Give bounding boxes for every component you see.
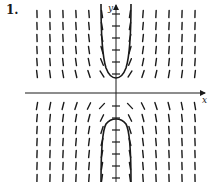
slope-mark: [169, 46, 170, 53]
slope-mark: [37, 70, 38, 77]
slope-mark: [88, 71, 90, 78]
slope-mark: [182, 70, 183, 77]
slope-mark: [194, 102, 195, 109]
slope-mark: [63, 126, 64, 133]
slope-mark: [142, 126, 143, 133]
slope-mark: [143, 10, 144, 17]
slope-mark: [36, 102, 37, 109]
slope-mark: [76, 138, 77, 145]
slope-mark: [143, 138, 144, 145]
slope-mark: [62, 103, 64, 110]
slope-mark: [63, 58, 64, 65]
slope-mark: [156, 126, 157, 133]
slope-mark: [87, 103, 90, 109]
slope-mark: [63, 46, 64, 53]
slope-mark: [169, 114, 170, 121]
slope-mark: [89, 138, 90, 145]
slope-mark: [100, 71, 104, 77]
slope-mark: [141, 103, 144, 109]
slope-mark: [89, 10, 90, 17]
slope-mark: [88, 58, 89, 65]
slope-mark: [89, 34, 90, 41]
slope-mark: [50, 114, 51, 121]
slope-mark: [76, 150, 77, 157]
slope-mark: [129, 59, 132, 66]
slope-mark: [142, 58, 143, 65]
slope-mark: [100, 103, 105, 108]
slope-mark: [88, 46, 89, 53]
slope-mark: [89, 174, 90, 181]
slope-mark: [155, 114, 156, 121]
x-axis-label: x: [202, 95, 207, 105]
slope-mark: [142, 71, 144, 78]
slope-mark: [88, 126, 89, 133]
slope-mark: [89, 162, 90, 169]
slope-mark: [142, 46, 143, 53]
slope-mark: [101, 59, 104, 66]
slope-mark: [156, 34, 157, 41]
slope-mark: [182, 126, 183, 133]
slope-mark: [143, 162, 144, 169]
slope-mark: [76, 58, 77, 65]
slope-mark: [143, 150, 144, 157]
slope-mark: [181, 102, 182, 109]
slope-mark: [143, 22, 144, 29]
slope-mark: [50, 58, 51, 65]
slope-mark: [88, 115, 90, 122]
slope-mark: [155, 103, 157, 110]
slope-mark: [155, 70, 157, 77]
slope-mark: [76, 46, 77, 53]
slope-mark: [143, 34, 144, 41]
slope-mark: [50, 70, 51, 77]
slope-mark: [169, 126, 170, 133]
slope-mark: [75, 70, 77, 77]
slope-mark: [182, 114, 183, 121]
slope-mark: [76, 34, 77, 41]
slope-mark: [156, 46, 157, 53]
slope-mark: [156, 150, 157, 157]
slope-mark: [75, 114, 76, 121]
slope-mark: [50, 126, 51, 133]
slope-mark: [169, 58, 170, 65]
slope-mark: [195, 114, 196, 121]
slope-mark: [156, 138, 157, 145]
y-axis-label: y: [107, 3, 114, 13]
slope-mark: [37, 114, 38, 121]
slope-mark: [168, 103, 170, 110]
slope-mark: [195, 58, 196, 65]
slope-mark: [75, 103, 77, 110]
slope-mark: [37, 58, 38, 65]
slope-mark: [128, 71, 132, 77]
slope-field-diagram: y x: [0, 0, 215, 182]
slope-mark: [182, 58, 183, 65]
slope-mark: [143, 174, 144, 181]
slope-mark: [49, 102, 50, 109]
slope-mark: [195, 70, 196, 77]
slope-mark: [168, 70, 169, 77]
slope-mark: [89, 150, 90, 157]
slope-mark: [89, 22, 90, 29]
slope-mark: [63, 114, 64, 121]
slope-mark: [62, 70, 63, 77]
slope-mark: [76, 126, 77, 133]
slope-mark: [128, 103, 133, 108]
slope-mark: [142, 115, 144, 122]
slope-mark: [128, 115, 131, 121]
slope-mark: [100, 115, 103, 121]
slope-mark: [156, 58, 157, 65]
